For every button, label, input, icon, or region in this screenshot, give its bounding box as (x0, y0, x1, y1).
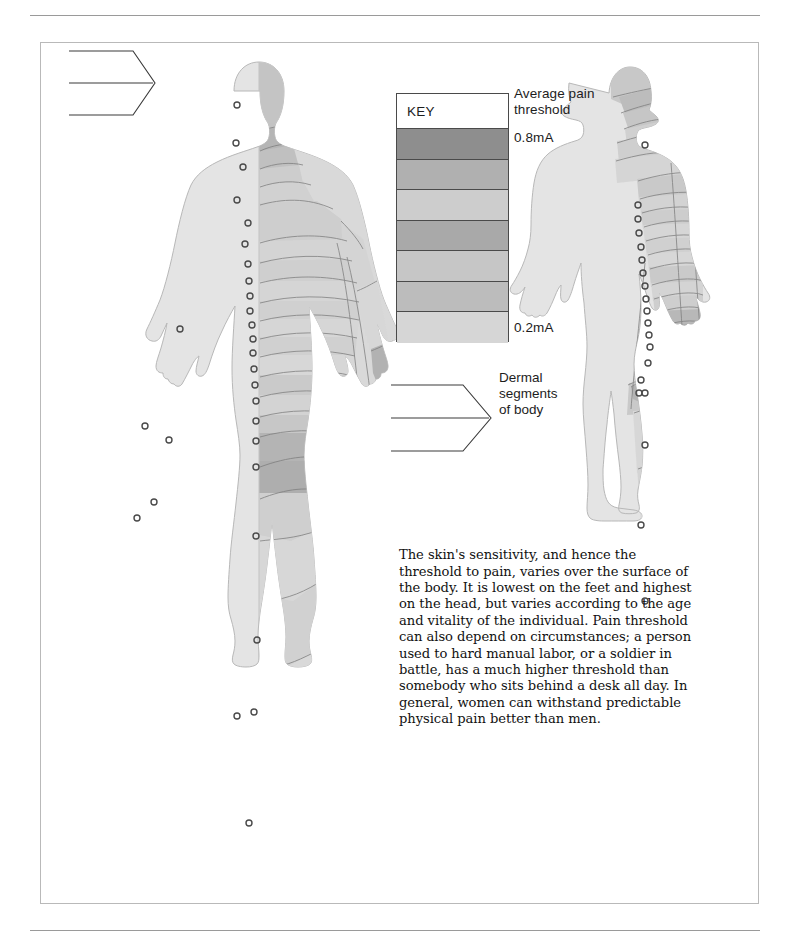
key-swatch-2 (397, 160, 508, 191)
dermal-segments-callout-arrow (69, 51, 155, 115)
arrow-outline (391, 385, 491, 451)
callout-arrow-group: Dermal segments of body (371, 375, 496, 465)
caption-paragraph: The skin's sensitivity, and hence the th… (399, 547, 701, 727)
key-swatch-6 (397, 282, 508, 313)
key-title: KEY (407, 104, 435, 119)
front-body-figure (134, 43, 439, 903)
average-threshold-label: Average pain threshold (514, 86, 595, 117)
key-swatch-5 (397, 251, 508, 282)
key-swatch-1 (397, 129, 508, 160)
top-rule (30, 15, 760, 16)
key-swatch-7 (397, 312, 508, 343)
page-frame: Dermal segments of body KEY Average pain… (40, 42, 759, 904)
bottom-rule (30, 930, 760, 931)
high-threshold-value: 0.8mA (514, 130, 554, 146)
key-title-row: KEY (397, 94, 508, 129)
callout-label: Dermal segments of body (499, 370, 558, 418)
key-swatch-3 (397, 190, 508, 221)
key-legend: KEY (396, 93, 509, 342)
key-swatch-4 (397, 221, 508, 252)
low-threshold-value: 0.2mA (514, 320, 554, 336)
